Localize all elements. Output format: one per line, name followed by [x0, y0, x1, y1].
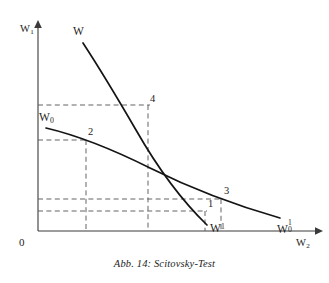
point-label-3: 3 [224, 186, 229, 197]
figure-canvas [0, 0, 329, 283]
y-axis-arrowhead [34, 20, 42, 28]
point-label-4: 4 [150, 94, 155, 105]
x-axis-label: W2 [296, 238, 310, 250]
curve-w-start-label: W [73, 26, 84, 38]
axes-group [34, 20, 323, 235]
curve-w0-end-label: W10 [277, 221, 293, 235]
figure-caption: Abb. 14: Scitovsky-Test [0, 258, 329, 269]
figure-scitovsky-test: W1 W2 0 W W1 W0 W10 2 4 3 1 Abb. 14: Sci… [0, 0, 329, 283]
x-axis-arrowhead [315, 227, 323, 235]
point-label-2: 2 [88, 127, 93, 138]
curve-w0-start-label: W0 [39, 112, 54, 125]
point-label-1: 1 [208, 199, 213, 210]
curve-w-end-label: W1 [210, 223, 225, 235]
curve-w [83, 43, 207, 225]
origin-label: 0 [19, 237, 25, 248]
y-axis-label: W1 [20, 24, 34, 36]
